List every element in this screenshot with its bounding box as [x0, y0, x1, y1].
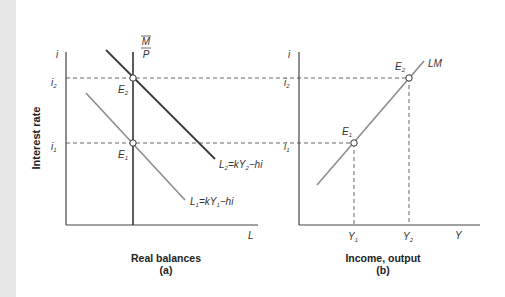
right-x-label: Income, output [345, 252, 421, 264]
left-e2-point [130, 75, 136, 81]
left-x-symbol: L [248, 230, 254, 241]
right-e1-point [351, 140, 357, 146]
right-tick-i2: i2 [284, 77, 290, 89]
left-tick-i2: i2 [51, 77, 57, 89]
l2-curve-label: L2=kY2−hi [219, 159, 263, 171]
right-e1-label: E1 [342, 126, 352, 138]
left-e1-label: E1 [118, 149, 128, 161]
left-y-symbol: i [56, 49, 59, 60]
panel-b: i Y i2 i1 LM E2 E1 Y1 Y2 Income, output … [284, 49, 480, 276]
svg-text:P: P [143, 49, 150, 60]
right-tick-y1: Y1 [348, 231, 358, 243]
right-x-symbol: Y [455, 230, 463, 241]
right-e2-label: E2 [395, 61, 406, 73]
lm-curve-label: LM [428, 58, 443, 69]
left-tick-i1: i1 [51, 141, 57, 153]
left-e2-label: E2 [118, 84, 129, 96]
money-supply-label: M P [141, 36, 151, 60]
right-caption: (b) [376, 264, 389, 276]
lm-diagram: Interest rate i L i2 i1 M P L2=kY2−hi L1… [0, 0, 505, 297]
svg-text:M: M [142, 36, 151, 47]
l1-curve [86, 93, 185, 200]
left-caption: (a) [160, 264, 173, 276]
left-x-label: Real balances [131, 252, 201, 264]
right-tick-y2: Y2 [403, 231, 414, 243]
right-y-symbol: i [288, 49, 291, 60]
right-e2-point [406, 75, 412, 81]
left-e1-point [130, 140, 136, 146]
l1-curve-label: L1=kY1−hi [190, 196, 234, 208]
left-y-axis-label: Interest rate [30, 107, 42, 170]
